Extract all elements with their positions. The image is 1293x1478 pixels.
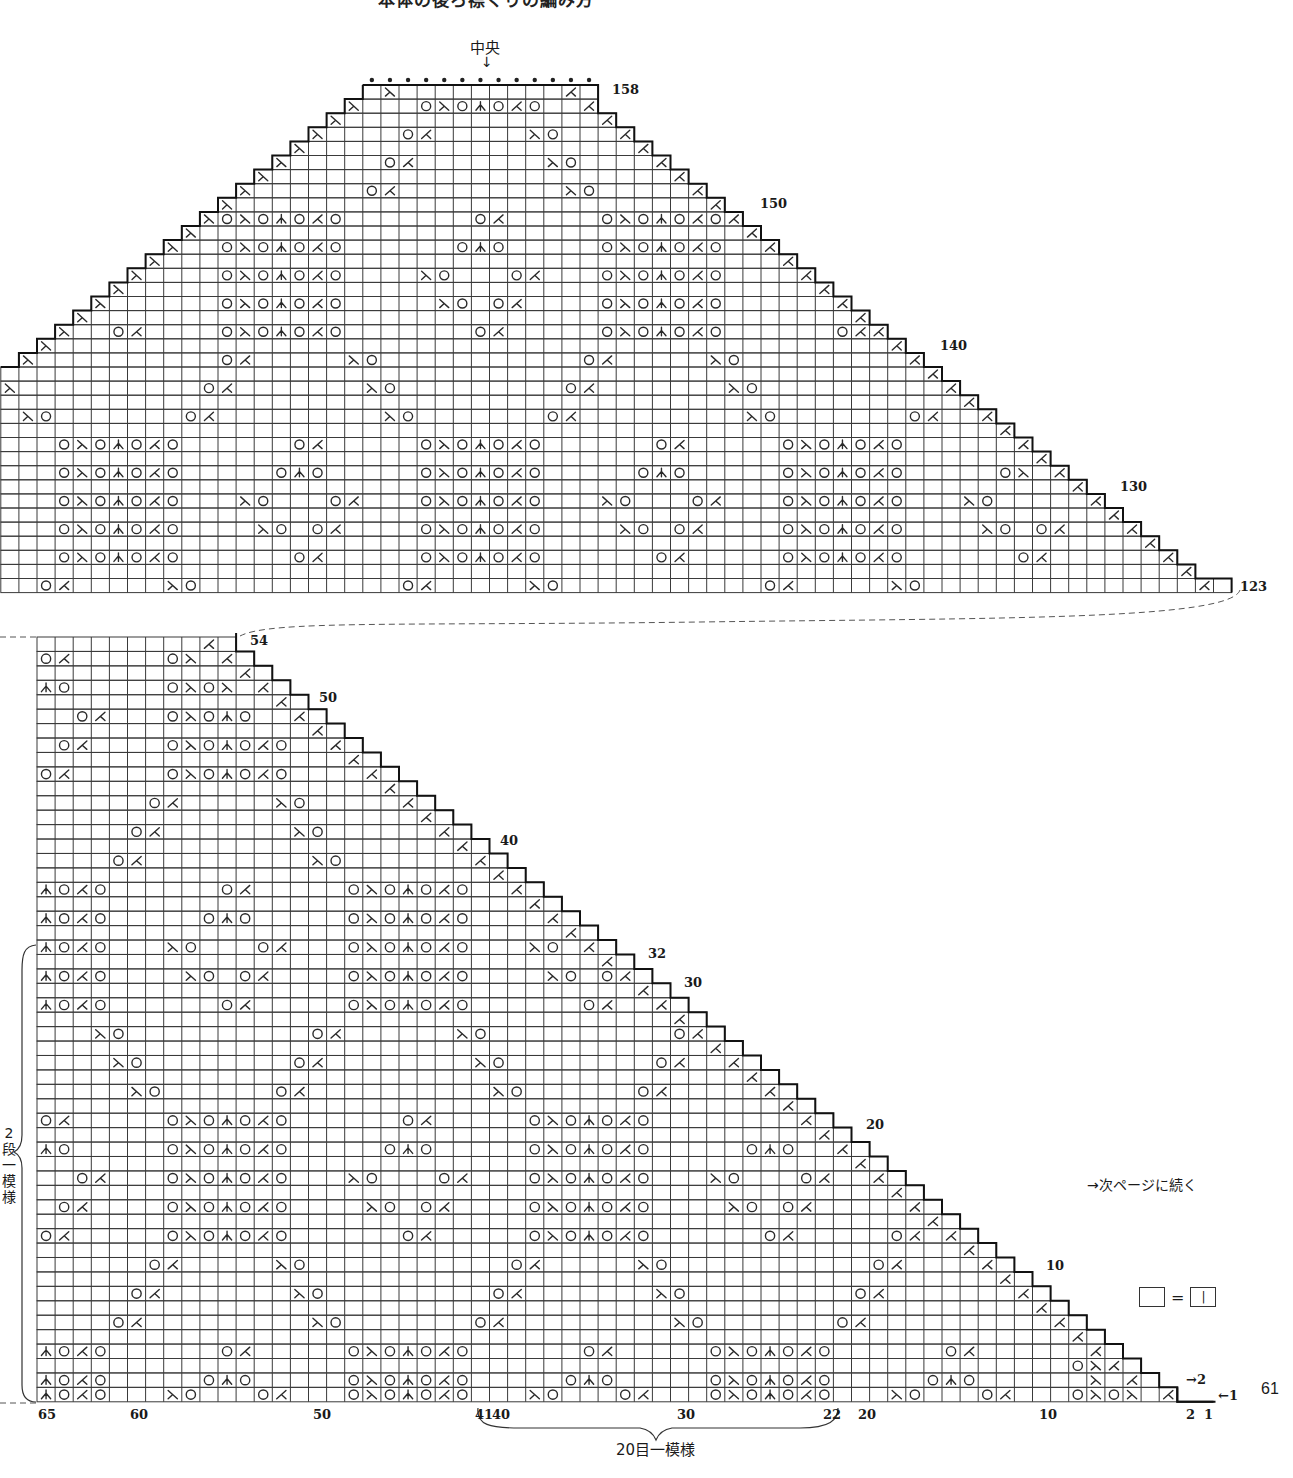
row-number-label: →2 (1186, 1372, 1206, 1387)
column-number-label: 60 (130, 1407, 148, 1422)
column-number-label: 22 (823, 1407, 841, 1422)
vertical-repeat-label: 2段一模様 (2, 1125, 16, 1205)
row-number-label: 40 (500, 833, 518, 848)
legend-knit-cell: | (1190, 1287, 1216, 1307)
continue-note: →次ページに続く (1087, 1174, 1197, 1194)
column-number-label: 2 (1186, 1407, 1195, 1422)
column-number-label: 1 (1204, 1407, 1213, 1422)
row-number-label: 123 (1240, 579, 1267, 594)
row-number-label: 140 (940, 338, 967, 353)
legend-equals: = (1171, 1288, 1184, 1307)
knitting-chart (0, 0, 1293, 1478)
row-number-label: 32 (648, 946, 666, 961)
column-number-label: 20 (858, 1407, 876, 1422)
row-number-label: 10 (1046, 1258, 1064, 1273)
row-number-label: 130 (1120, 479, 1147, 494)
row-number-label: 150 (760, 196, 787, 211)
column-number-label: 40 (492, 1407, 510, 1422)
horizontal-repeat-label: 20目一模様 (616, 1438, 695, 1459)
column-number-label: 65 (38, 1407, 56, 1422)
page-number: 61 (1261, 1380, 1279, 1398)
legend-blank-cell (1139, 1287, 1165, 1307)
row-number-label: 158 (612, 82, 639, 97)
legend: = | (1139, 1287, 1216, 1307)
row-number-label: ←1 (1218, 1388, 1238, 1403)
knit-symbol-icon: | (1201, 1290, 1205, 1304)
row-number-label: 50 (319, 690, 337, 705)
column-number-label: 41 (475, 1407, 493, 1422)
row-number-label: 30 (684, 975, 702, 990)
column-number-label: 50 (313, 1407, 331, 1422)
column-number-label: 30 (677, 1407, 695, 1422)
row-number-label: 54 (250, 633, 268, 648)
row-number-label: 20 (866, 1117, 884, 1132)
column-number-label: 10 (1039, 1407, 1057, 1422)
